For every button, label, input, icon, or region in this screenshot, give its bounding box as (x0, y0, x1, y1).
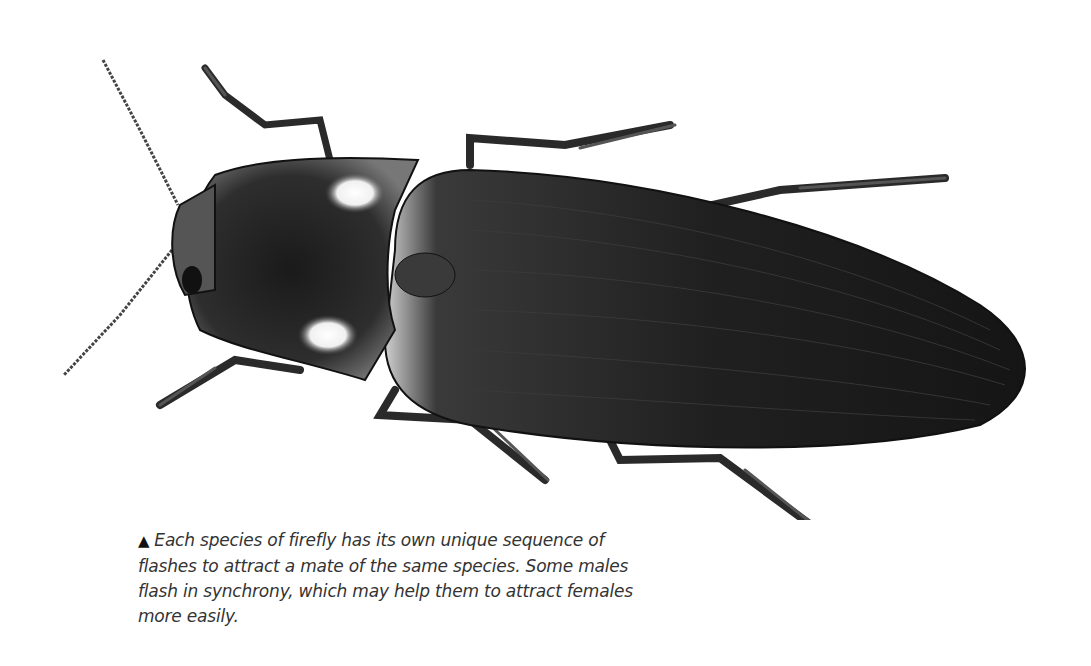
antenna-lower (64, 250, 172, 375)
light-spot-lower (298, 315, 358, 355)
scutellum (395, 253, 455, 297)
figure-caption: ▲Each species of firefly has its own uni… (138, 528, 638, 629)
triangle-marker-icon: ▲ (138, 532, 149, 550)
firefly-illustration (0, 0, 1091, 520)
light-spot-upper (325, 173, 385, 213)
caption-text: Each species of firefly has its own uniq… (138, 530, 633, 626)
antenna-upper (103, 60, 178, 205)
eye (182, 266, 202, 294)
elytra (385, 170, 1025, 448)
